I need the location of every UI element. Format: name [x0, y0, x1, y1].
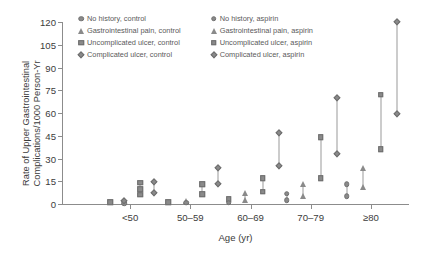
legend-column-control: No history, controlGastrointestinal pain…	[78, 14, 181, 59]
legend-item[interactable]: Gastrointestinal pain, aspirin	[211, 26, 313, 35]
circle-marker-icon	[344, 194, 350, 200]
x-tick-mark	[130, 205, 131, 209]
square-marker-icon	[318, 175, 324, 181]
square-marker-icon	[200, 191, 206, 197]
x-tick-label: <50	[122, 212, 138, 223]
x-axis-line	[62, 204, 409, 205]
connector-line	[396, 22, 397, 114]
connector-line	[320, 137, 321, 178]
legend-item-label: Gastrointestinal pain, control	[87, 26, 181, 35]
circle-marker-icon	[284, 197, 290, 203]
x-tick-label: ≥80	[363, 212, 379, 223]
triangle-marker-icon	[360, 165, 366, 171]
y-tick-mark	[58, 159, 62, 160]
diamond-marker-icon	[333, 150, 340, 157]
legend-column-aspirin: No history, aspirinGastrointestinal pain…	[211, 14, 313, 59]
triangle-marker-icon	[300, 193, 306, 199]
legend-item[interactable]: Complicated ulcer, aspirin	[211, 50, 313, 59]
legend-item-label: Complicated ulcer, control	[87, 50, 172, 59]
circle-marker-icon	[344, 181, 350, 187]
y-tick-label: 60	[45, 108, 56, 119]
legend-glyph	[211, 52, 217, 58]
legend-item-label: No history, aspirin	[220, 14, 279, 23]
diamond-marker-icon	[215, 164, 222, 171]
square-marker-icon	[211, 40, 217, 46]
square-marker-icon	[137, 186, 143, 192]
legend-glyph	[78, 28, 84, 34]
y-tick-mark	[58, 68, 62, 69]
diamond-marker-icon	[150, 189, 157, 196]
legend-item[interactable]: No history, control	[78, 14, 181, 23]
legend-item[interactable]: Complicated ulcer, control	[78, 50, 181, 59]
x-tick-mark	[371, 205, 372, 209]
x-tick-label: 70–79	[297, 212, 324, 223]
circle-marker-icon	[226, 200, 232, 206]
y-tick-label: 0	[51, 199, 56, 210]
legend-item-label: Uncomplicated ulcer, aspirin	[220, 38, 312, 47]
legend-glyph	[78, 40, 84, 46]
legend-item[interactable]: Uncomplicated ulcer, aspirin	[211, 38, 313, 47]
legend-glyph	[78, 16, 84, 22]
y-tick-mark	[58, 181, 62, 182]
legend-item-label: Complicated ulcer, aspirin	[220, 50, 305, 59]
y-tick-mark	[58, 22, 62, 23]
y-tick-label: 90	[45, 62, 56, 73]
square-marker-icon	[200, 181, 206, 187]
triangle-marker-icon	[242, 190, 248, 196]
y-tick-label: 120	[40, 17, 56, 28]
square-marker-icon	[260, 175, 266, 181]
chart-figure: Rate of Upper Gastrointestinal Complicat…	[0, 0, 421, 256]
circle-marker-icon	[78, 16, 84, 22]
y-axis-title-line-1: Rate of Upper Gastrointestinal	[21, 28, 32, 218]
legend-item-label: Gastrointestinal pain, aspirin	[220, 26, 313, 35]
square-marker-icon	[260, 189, 266, 195]
diamond-marker-icon	[393, 110, 400, 117]
y-tick-mark	[58, 113, 62, 114]
x-axis-title: Age (yr)	[62, 232, 409, 243]
x-tick-mark	[311, 205, 312, 209]
x-tick-mark	[190, 205, 191, 209]
y-tick-mark	[58, 136, 62, 137]
legend-item[interactable]: Uncomplicated ulcer, control	[78, 38, 181, 47]
square-marker-icon	[378, 92, 384, 98]
y-tick-label: 75	[45, 85, 56, 96]
triangle-marker-icon	[300, 181, 306, 187]
x-tick-mark	[251, 205, 252, 209]
y-axis-line	[62, 22, 63, 204]
connector-line	[336, 98, 337, 154]
triangle-marker-icon	[242, 197, 248, 203]
triangle-marker-icon	[211, 28, 217, 34]
triangle-marker-icon	[360, 184, 366, 190]
circle-marker-icon	[284, 191, 290, 197]
diamond-marker-icon	[150, 178, 157, 185]
diamond-marker-icon	[77, 51, 84, 58]
square-marker-icon	[107, 200, 113, 206]
connector-line	[380, 95, 381, 150]
square-marker-icon	[378, 147, 384, 153]
legend-item-label: No history, control	[87, 14, 146, 23]
chart-legend: No history, controlGastrointestinal pain…	[78, 14, 313, 59]
legend-glyph	[78, 52, 84, 58]
legend-item[interactable]: Gastrointestinal pain, control	[78, 26, 181, 35]
diamond-marker-icon	[275, 162, 282, 169]
legend-item-label: Uncomplicated ulcer, control	[87, 38, 180, 47]
triangle-marker-icon	[78, 28, 84, 34]
legend-item[interactable]: No history, aspirin	[211, 14, 313, 23]
circle-marker-icon	[184, 200, 190, 206]
y-tick-label: 30	[45, 153, 56, 164]
diamond-marker-icon	[215, 181, 222, 188]
diamond-marker-icon	[333, 94, 340, 101]
y-tick-mark	[58, 45, 62, 46]
legend-glyph	[211, 16, 217, 22]
x-tick-label: 50–59	[177, 212, 204, 223]
square-marker-icon	[166, 199, 172, 205]
legend-glyph	[211, 40, 217, 46]
diamond-marker-icon	[210, 51, 217, 58]
square-marker-icon	[137, 180, 143, 186]
x-tick-label: 60–69	[237, 212, 264, 223]
y-tick-label: 15	[45, 176, 56, 187]
y-axis-title-line-2: Complications/1000 Person-Yr	[32, 28, 43, 218]
y-tick-label: 105	[40, 39, 56, 50]
y-axis-title: Rate of Upper Gastrointestinal Complicat…	[21, 28, 44, 218]
y-tick-mark	[58, 90, 62, 91]
